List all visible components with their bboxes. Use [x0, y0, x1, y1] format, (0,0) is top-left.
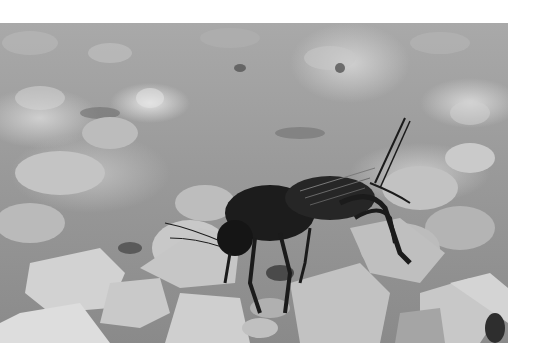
cricket-photo — [0, 23, 508, 343]
photo-illustration — [0, 23, 508, 343]
